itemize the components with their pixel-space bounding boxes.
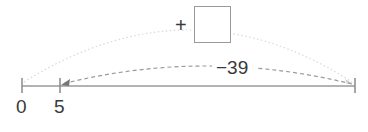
tick-label-0: 0 — [16, 97, 27, 116]
bottom-jump-arc — [62, 66, 352, 84]
tick-label-5: 5 — [54, 97, 65, 116]
bottom-jump-arrowhead-icon — [61, 79, 70, 86]
answer-box[interactable] — [194, 6, 231, 43]
bottom-jump-label: −39 — [216, 58, 248, 77]
plus-operator: + — [175, 15, 187, 35]
